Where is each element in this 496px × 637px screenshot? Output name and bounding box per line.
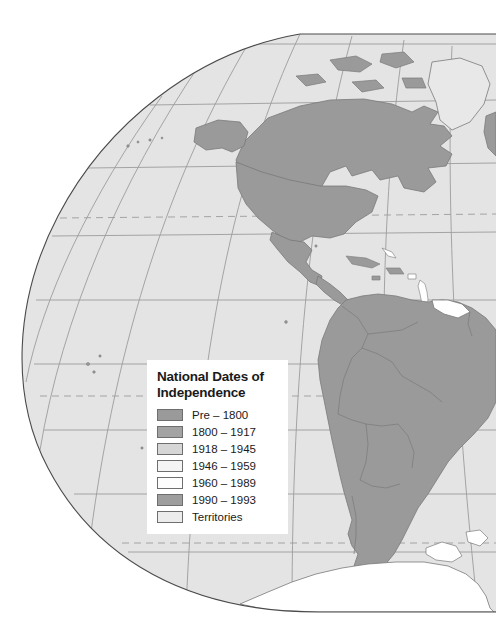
legend-swatch <box>157 511 183 523</box>
legend-swatch <box>157 494 183 506</box>
legend-label: 1946 – 1959 <box>192 460 256 472</box>
legend-item[interactable]: Pre – 1800 <box>157 407 279 423</box>
legend-label: 1990 – 1993 <box>192 494 256 506</box>
legend-item[interactable]: 1800 – 1917 <box>157 424 279 440</box>
legend-label: 1960 – 1989 <box>192 477 256 489</box>
legend-item[interactable]: 1918 – 1945 <box>157 441 279 457</box>
legend-swatch <box>157 426 183 438</box>
map-screenshot: National Dates of Independence Pre – 180… <box>0 0 496 637</box>
island-jamaica <box>372 276 380 280</box>
legend-item[interactable]: 1960 – 1989 <box>157 475 279 491</box>
legend-item[interactable]: Territories <box>157 509 279 525</box>
island-puerto-rico <box>408 274 416 279</box>
globe-svg <box>0 0 496 637</box>
legend-title-line2: Independence <box>157 385 279 401</box>
world-map[interactable] <box>0 0 496 637</box>
legend-label: 1800 – 1917 <box>192 426 256 438</box>
legend-swatch <box>157 409 183 421</box>
map-legend[interactable]: National Dates of Independence Pre – 180… <box>147 360 288 534</box>
legend-item[interactable]: 1946 – 1959 <box>157 458 279 474</box>
legend-label: Territories <box>192 511 242 523</box>
legend-swatch <box>157 443 183 455</box>
legend-label: Pre – 1800 <box>192 409 248 421</box>
legend-swatch <box>157 460 183 472</box>
legend-label: 1918 – 1945 <box>192 443 256 455</box>
legend-title-line1: National Dates of <box>157 369 279 385</box>
legend-title: National Dates of Independence <box>157 369 279 400</box>
legend-item[interactable]: 1990 – 1993 <box>157 492 279 508</box>
legend-swatch <box>157 477 183 489</box>
